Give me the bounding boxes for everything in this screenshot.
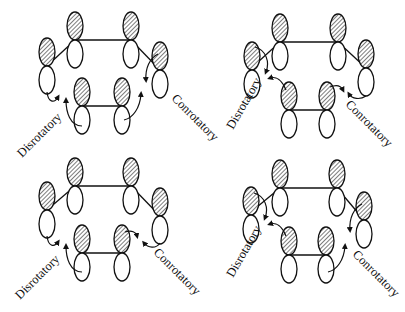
p-orbital-right [358, 40, 374, 96]
open-lobe [152, 70, 168, 98]
conrotatory-label: Conrotatory [169, 91, 222, 144]
shaded-lobe [281, 82, 297, 110]
p-orbital-right [152, 188, 168, 244]
open-lobe [152, 216, 168, 244]
open-lobe [281, 255, 297, 283]
shaded-lobe [272, 160, 288, 188]
open-lobe [74, 106, 90, 134]
conrotatory-label: Conrotatory [343, 97, 396, 150]
shaded-lobe [74, 225, 90, 253]
p-orbital-right [152, 42, 168, 98]
open-lobe [358, 68, 374, 96]
shaded-lobe [152, 188, 168, 216]
open-lobe [123, 186, 139, 214]
disrotatory-label: Disrotatory [14, 109, 65, 160]
open-lobe [329, 188, 345, 216]
shaded-lobe [39, 38, 55, 66]
diagram-svg: DisrotatoryConrotatoryDisrotatoryConrota… [0, 0, 405, 312]
open-lobe [281, 110, 297, 138]
shaded-lobe [330, 14, 346, 42]
open-lobe [114, 253, 130, 281]
open-lobe [272, 42, 288, 70]
open-lobe [318, 255, 334, 283]
shaded-lobe [67, 158, 83, 186]
shaded-lobe [123, 12, 139, 40]
open-lobe [123, 40, 139, 68]
shaded-lobe [67, 12, 83, 40]
open-lobe [330, 42, 346, 70]
shaded-lobe [74, 78, 90, 106]
shaded-lobe [272, 14, 288, 42]
p-orbital-left [39, 182, 55, 238]
pericyclic-orbital-diagram: DisrotatoryConrotatoryDisrotatoryConrota… [0, 0, 405, 312]
open-lobe [39, 210, 55, 238]
open-lobe [74, 253, 90, 281]
panel-bottom-left: DisrotatoryConrotatory [12, 158, 204, 302]
conrotatory-label: Conrotatory [350, 247, 403, 300]
shaded-lobe [243, 187, 259, 215]
shaded-lobe [318, 227, 334, 255]
shaded-lobe [329, 160, 345, 188]
shaded-lobe [114, 78, 130, 106]
open-lobe [356, 220, 372, 248]
open-lobe [67, 40, 83, 68]
p-orbital-right [356, 192, 372, 248]
open-lobe [114, 106, 130, 134]
conrotatory-label: Conrotatory [151, 245, 204, 298]
disrotatory-label: Disrotatory [12, 251, 63, 302]
shaded-lobe [244, 42, 260, 70]
shaded-lobe [39, 182, 55, 210]
shaded-lobe [358, 40, 374, 68]
shaded-lobe [114, 225, 130, 253]
open-lobe [319, 110, 335, 138]
shaded-lobe [123, 158, 139, 186]
panel-top-right: DisrotatoryConrotatory [223, 14, 396, 150]
open-lobe [67, 186, 83, 214]
open-lobe [272, 188, 288, 216]
panel-bottom-right: DisrotatoryConrotatory [223, 160, 403, 300]
p-orbital-left [39, 38, 55, 94]
open-lobe [39, 66, 55, 94]
panel-top-left: DisrotatoryConrotatory [14, 12, 222, 160]
